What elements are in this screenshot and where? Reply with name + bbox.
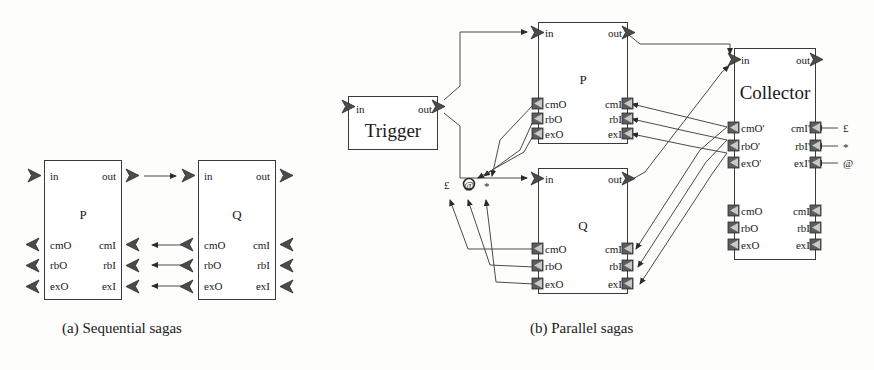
port-label-b-Q-cmI: cmI — [582, 244, 622, 255]
component-name-b-Trigger: Trigger — [348, 120, 438, 142]
port-label-a-Q-rbO: rbO — [204, 260, 221, 271]
caption-b: (b) Parallel sagas — [530, 320, 633, 337]
port-label-b-Collector-rbIp: rbI' — [772, 141, 810, 152]
port-label-b-Q-rbO: rbO — [545, 261, 562, 272]
figure-canvas: in out P cmO rbO exO cmI rbI exI in out … — [0, 0, 874, 370]
port-label-b-P-rbI: rbI — [582, 114, 622, 125]
port-label-b-Collector-rbI: rbI — [772, 223, 810, 234]
component-name-b-Q: Q — [538, 218, 628, 234]
port-label-b-Q-in: in — [545, 174, 554, 185]
wire-b-trigger-out-q-in — [444, 113, 527, 178]
port-label-a-P-exI: exI — [76, 281, 116, 292]
wire-b-collector-exop-q-exi — [640, 153, 727, 284]
port-label-b-P-cmI: cmI — [582, 99, 622, 110]
port-label-b-Collector-exIp: exI' — [772, 158, 810, 169]
port-label-a-Q-cmI: cmI — [230, 240, 270, 251]
wire-b-q-cmo-pound — [450, 200, 534, 249]
junction-symbol-star: * — [484, 181, 490, 192]
port-label-b-Collector-in: in — [741, 55, 750, 66]
component-name-b-Collector: Collector — [729, 82, 821, 104]
port-label-b-Collector-exI: exI — [772, 240, 810, 251]
component-name-a-Q: Q — [198, 207, 276, 223]
port-label-a-Q-cmO: cmO — [204, 240, 225, 251]
port-label-a-Q-exO: exO — [204, 281, 222, 292]
port-label-b-Collector-exOp: exO' — [741, 158, 761, 169]
port-label-a-P-rbI: rbI — [76, 260, 116, 271]
wire-b-p-exo-at2 — [478, 134, 534, 178]
port-label-a-Q-out: out — [230, 171, 270, 182]
port-label-a-Q-rbI: rbI — [230, 260, 270, 271]
port-label-b-P-out: out — [582, 28, 622, 39]
port-label-b-Trigger-in: in — [356, 104, 365, 115]
caption-a: (a) Sequential sagas — [62, 320, 182, 337]
external-symbol-at: @ — [843, 158, 853, 169]
junction-symbol-pound: £ — [444, 180, 450, 191]
port-label-a-P-out: out — [76, 171, 116, 182]
wire-b-collector-cmop-q-cmi — [636, 127, 727, 249]
port-label-b-Q-rbI: rbI — [582, 261, 622, 272]
component-name-b-P: P — [538, 72, 628, 88]
wire-b-q-exo-star — [486, 200, 534, 284]
wire-b-p-out-collector-in — [629, 35, 730, 54]
port-label-b-P-in: in — [545, 28, 554, 39]
wire-b-collector-rbop-q-rbi — [638, 140, 727, 267]
port-label-b-Q-exI: exI — [582, 279, 622, 290]
port-label-b-Collector-rbO: rbO — [741, 223, 758, 234]
port-label-b-P-exO: exO — [545, 129, 563, 140]
port-label-a-Q-exI: exI — [230, 281, 270, 292]
junction-symbol-at: @ — [464, 180, 474, 191]
port-label-b-Collector-cmI: cmI — [772, 206, 810, 217]
port-label-b-P-cmO: cmO — [545, 99, 566, 110]
external-symbol-star: * — [843, 142, 849, 153]
port-label-b-Collector-cmOp: cmO' — [741, 123, 764, 134]
port-label-a-P-exO: exO — [50, 281, 68, 292]
port-label-a-Q-in: in — [204, 171, 213, 182]
port-label-b-Q-exO: exO — [545, 279, 563, 290]
port-label-a-P-cmI: cmI — [76, 240, 116, 251]
port-label-b-Trigger-out: out — [392, 104, 432, 115]
port-label-b-Collector-exO: exO — [741, 240, 759, 251]
port-label-b-Collector-out: out — [772, 55, 810, 66]
port-label-a-P-in: in — [50, 171, 59, 182]
port-label-b-Q-out: out — [582, 174, 622, 185]
port-label-b-P-exI: exI — [582, 129, 622, 140]
external-symbol-pound: £ — [843, 123, 849, 134]
port-label-b-Collector-cmO: cmO — [741, 206, 762, 217]
port-label-b-Collector-cmIp: cmI' — [772, 123, 810, 134]
wire-b-collector-cmop-p-cmi — [632, 104, 727, 127]
port-label-a-P-cmO: cmO — [50, 240, 71, 251]
wire-b-trigger-out-p-in — [444, 32, 527, 100]
port-label-b-Q-cmO: cmO — [545, 244, 566, 255]
port-label-b-P-rbO: rbO — [545, 114, 562, 125]
wire-b-q-rbo-at — [468, 200, 534, 267]
port-label-b-Collector-rbOp: rbO' — [741, 141, 760, 152]
component-name-a-P: P — [44, 207, 122, 223]
port-label-a-P-rbO: rbO — [50, 260, 67, 271]
